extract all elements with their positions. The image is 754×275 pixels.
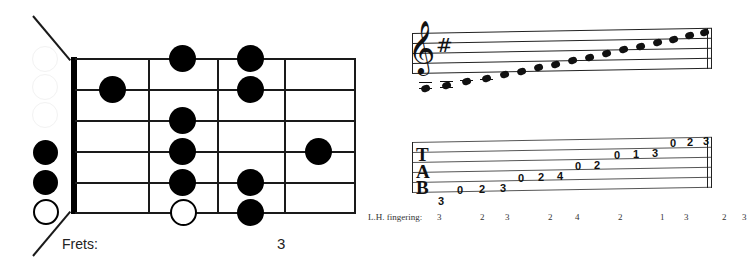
notehead — [668, 35, 679, 44]
notehead — [618, 45, 629, 54]
lh-fingering-value: 2 — [722, 212, 727, 222]
staff-end-barline-thin2 — [711, 28, 712, 69]
lh-fingering-value: 3 — [437, 212, 442, 222]
notehead — [461, 77, 472, 86]
tab-fret-number: 2 — [687, 137, 693, 148]
notehead — [516, 67, 527, 76]
tab-letter-b: B — [416, 178, 429, 197]
lh-fingering-value: 2 — [480, 212, 485, 222]
open-string-marker-6 — [33, 199, 59, 225]
lh-fingering-value: 3 — [684, 212, 689, 222]
notehead — [652, 38, 663, 47]
ledger-line — [419, 82, 432, 83]
tab-fret-number: 3 — [500, 183, 506, 194]
open-string-marker-3 — [32, 102, 58, 128]
frets-label: Frets: — [62, 236, 98, 252]
scale-diagram-page: Frets: 3 𝄞 # — [0, 0, 754, 275]
fretboard-dot-s4-f2 — [169, 138, 196, 165]
string-line-6 — [75, 212, 355, 214]
notehead — [567, 56, 578, 65]
lh-fingering-value: 4 — [575, 212, 580, 222]
tab-line-2 — [412, 147, 712, 153]
notehead — [499, 70, 510, 79]
lh-fingering-value: 1 — [660, 212, 665, 222]
tab-fret-number: 2 — [594, 160, 600, 171]
fretboard-dot-s1-f2 — [169, 45, 196, 72]
tab-fret-number: 0 — [518, 173, 524, 184]
tab-fret-number: 4 — [557, 171, 563, 182]
fretboard-dot-s4-f4 — [305, 138, 332, 165]
lh-fingering-value: 3 — [742, 212, 747, 222]
open-string-marker-2 — [32, 74, 58, 100]
notehead — [420, 84, 431, 93]
open-string-marker-5 — [33, 170, 58, 195]
tab-fret-number: 3 — [438, 196, 444, 207]
fretboard-dot-s2-f1 — [99, 76, 126, 103]
fret-line-4 — [354, 58, 356, 214]
tab-end-barline-thin2 — [711, 137, 712, 188]
string-line-3 — [75, 120, 355, 122]
notehead — [550, 60, 561, 69]
tab-fret-number: 0 — [614, 150, 620, 161]
tab-fret-number: 3 — [703, 136, 709, 147]
fretboard-dot-s3-f2 — [169, 107, 196, 134]
staff-line-1 — [412, 28, 712, 34]
open-string-marker-4 — [33, 140, 58, 165]
tab-fret-number: 3 — [652, 148, 658, 159]
nut — [71, 57, 77, 214]
tab-left-barline — [412, 142, 413, 193]
tab-fret-number: 0 — [575, 161, 581, 172]
fret-line-1 — [148, 58, 150, 214]
fretboard-dot-s2-f3 — [237, 76, 264, 103]
notehead — [441, 81, 452, 90]
treble-clef-icon: 𝄞 — [408, 24, 435, 70]
staff-line-4 — [412, 58, 712, 64]
string-line-1 — [75, 58, 355, 60]
tab-line-3 — [412, 157, 712, 163]
tab-fret-number: 2 — [538, 172, 544, 183]
staff-line-3 — [412, 48, 712, 54]
notehead — [699, 28, 710, 37]
string-line-5 — [75, 182, 355, 184]
lh-fingering-value: 2 — [548, 212, 553, 222]
tab-line-1 — [412, 137, 712, 143]
lh-fingering-label: L.H. fingering: — [368, 212, 422, 222]
fretboard-dot-s6-f3 — [237, 199, 264, 226]
lh-fingering-value: 2 — [618, 212, 623, 222]
tab-fret-number: 0 — [457, 185, 463, 196]
fretboard-dot-s6-f2 — [170, 199, 197, 226]
fretboard-dot-s5-f3 — [237, 169, 264, 196]
staff-line-5 — [412, 68, 712, 74]
fretboard-dot-s5-f2 — [169, 169, 196, 196]
fret-line-2 — [217, 58, 219, 214]
notehead — [601, 49, 612, 58]
tab-fret-number: 2 — [479, 184, 485, 195]
tab-fret-number: 0 — [670, 138, 676, 149]
lh-fingering-value: 3 — [505, 212, 510, 222]
fret-line-3 — [284, 58, 286, 214]
staff-line-2 — [412, 38, 712, 44]
sharp-key-signature-icon: # — [436, 35, 453, 55]
tab-fret-number: 1 — [633, 149, 639, 160]
fretboard-dot-s1-f3 — [237, 45, 264, 72]
fret-marker-number: 3 — [277, 235, 285, 252]
open-string-marker-1 — [32, 46, 58, 72]
fretboard-diagram: Frets: 3 — [0, 0, 380, 275]
notation-and-tab: 𝄞 # T — [390, 0, 754, 275]
notehead — [481, 74, 492, 83]
